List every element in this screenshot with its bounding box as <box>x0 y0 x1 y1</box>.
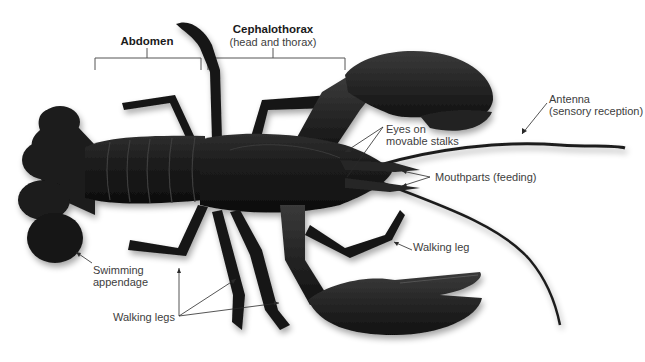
swimming-appendage-label: Swimming <box>93 264 144 276</box>
region-brackets <box>95 48 345 70</box>
eyes-leader-1 <box>345 127 383 152</box>
leg-bottom-1 <box>128 205 208 256</box>
cephalothorax-shape <box>200 134 392 213</box>
walking-legs-label: Walking legs <box>113 311 175 323</box>
lower-claw <box>308 272 482 335</box>
antenna-sublabel: (sensory reception) <box>549 105 643 117</box>
abdomen-shape <box>85 136 205 204</box>
swimming-appendage-sublabel: appendage <box>93 276 148 288</box>
cephalothorax-label: Cephalothorax <box>233 23 314 35</box>
lobster-illustration <box>0 0 645 362</box>
lobster-anatomy-diagram: Abdomen Cephalothorax (head and thorax) … <box>0 0 645 362</box>
antenna-label: Antenna <box>549 93 590 105</box>
cephalothorax-bracket <box>208 58 345 70</box>
eyes-label: Eyes on <box>386 123 426 135</box>
abdomen-label: Abdomen <box>120 35 173 47</box>
swimming-appendage-shape <box>27 213 83 263</box>
upper-claw <box>345 51 493 119</box>
mouthparts-label: Mouthparts (feeding) <box>435 171 537 183</box>
cephalothorax-sublabel: (head and thorax) <box>230 36 317 48</box>
walking-legs-leader-2 <box>179 279 236 316</box>
walking-leg-label: Walking leg <box>413 241 469 253</box>
walking-leg-right <box>305 210 405 258</box>
walking-legs-leader-3 <box>179 303 279 316</box>
lower-claw-arm <box>280 205 330 305</box>
eyes-sublabel: movable stalks <box>386 135 459 147</box>
leg-top-1 <box>122 95 195 142</box>
antenna-leader <box>522 103 547 134</box>
abdomen-bracket <box>95 58 201 70</box>
